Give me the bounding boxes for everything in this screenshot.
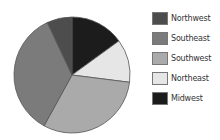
legend-label: Southwest [171,54,211,63]
legend-swatch [152,32,168,45]
legend-swatch [152,72,168,85]
legend-item-northeast: Northeast [152,68,211,88]
legend: Northwest Southeast Southwest Northeast … [152,8,211,108]
legend-item-southwest: Southwest [152,48,211,68]
legend-item-midwest: Midwest [152,88,211,108]
legend-label: Northeast [171,74,209,83]
legend-label: Midwest [171,94,203,103]
pie-chart [0,0,150,140]
legend-swatch [152,12,168,25]
legend-label: Southeast [171,34,210,43]
legend-item-northwest: Northwest [152,8,211,28]
legend-swatch [152,52,168,65]
legend-swatch [152,92,168,105]
legend-label: Northwest [171,14,210,23]
legend-item-southeast: Southeast [152,28,211,48]
